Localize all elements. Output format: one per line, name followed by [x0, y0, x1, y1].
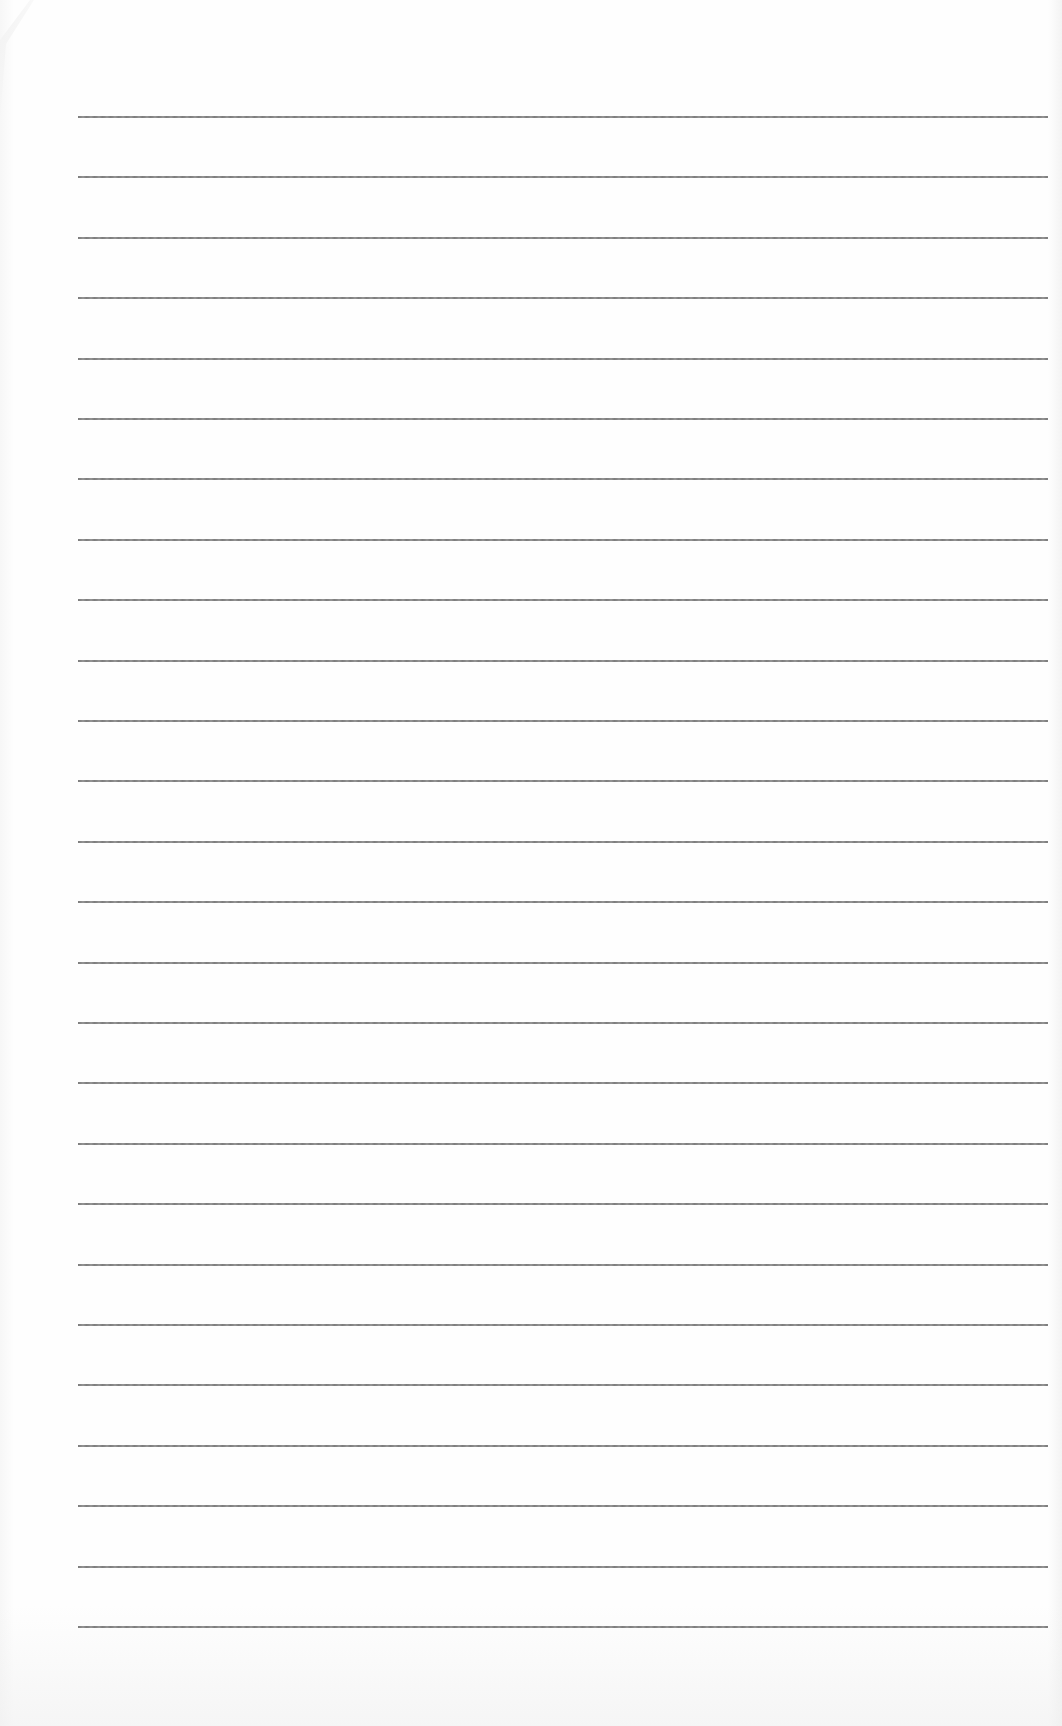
ruled-line — [78, 1324, 1048, 1326]
ruled-line — [78, 116, 1048, 118]
ruled-line — [78, 297, 1048, 299]
ruled-line — [78, 841, 1048, 843]
ruled-line — [78, 1143, 1048, 1145]
lined-paper-sheet — [0, 0, 1062, 1726]
ruled-line — [78, 478, 1048, 480]
paper-curl-edge — [0, 0, 34, 120]
ruled-line — [78, 358, 1048, 360]
ruled-line — [78, 1445, 1048, 1447]
ruled-line — [78, 418, 1048, 420]
ruled-line — [78, 1566, 1048, 1568]
ruled-line — [78, 237, 1048, 239]
ruled-line — [78, 720, 1048, 722]
ruled-line — [78, 901, 1048, 903]
ruled-line — [78, 1022, 1048, 1024]
ruled-line — [78, 1384, 1048, 1386]
ruled-line — [78, 539, 1048, 541]
ruled-line — [78, 1264, 1048, 1266]
ruled-line — [78, 176, 1048, 178]
ruled-line — [78, 599, 1048, 601]
ruled-line — [78, 962, 1048, 964]
ruled-line — [78, 660, 1048, 662]
ruled-line — [78, 1082, 1048, 1084]
ruled-line — [78, 1626, 1048, 1628]
ruled-line — [78, 1505, 1048, 1507]
ruled-line — [78, 1203, 1048, 1205]
ruled-line — [78, 780, 1048, 782]
